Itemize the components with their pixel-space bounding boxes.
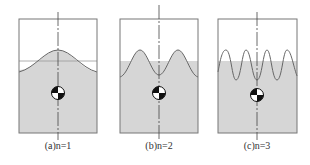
- caption-panel-b: (b)n=2: [119, 140, 199, 151]
- center-of-gravity-icon: [52, 87, 65, 100]
- center-of-gravity-icon: [251, 89, 264, 102]
- center-of-gravity-icon: [153, 87, 166, 100]
- panel-a: [19, 12, 97, 140]
- caption-panel-c: (c)n=3: [217, 140, 297, 151]
- panel-b: [120, 5, 198, 140]
- caption-panel-a: (a)n=1: [18, 140, 98, 151]
- panel-c: [218, 12, 297, 140]
